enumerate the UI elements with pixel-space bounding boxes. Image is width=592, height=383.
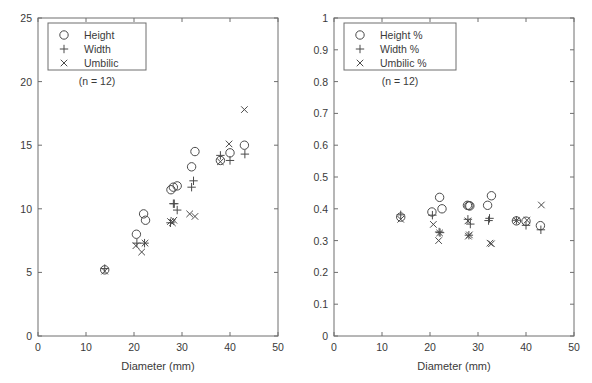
sample-size-annotation: (n = 12) [79,75,115,87]
x-tick-label: 50 [272,341,284,353]
chart-panel-right: 0102030405000.10.20.30.40.50.60.70.80.91… [296,0,592,383]
y-tick-label: 0.5 [313,171,328,183]
legend-label-cross: Umbilic % [380,57,427,69]
x-tick-label: 30 [472,341,484,353]
x-tick-label: 50 [568,341,580,353]
scatter-plot-right: 0102030405000.10.20.30.40.50.60.70.80.91… [296,0,592,383]
y-tick-label: 20 [20,76,32,88]
x-tick-label: 20 [424,341,436,353]
y-tick-label: 0.7 [313,107,328,119]
legend-label-circle: Height % [380,29,423,41]
y-tick-label: 0.8 [313,76,328,88]
x-axis-title: Diameter (mm) [121,360,194,372]
y-tick-label: 15 [20,139,32,151]
x-tick-label: 40 [224,341,236,353]
y-tick-label: 5 [26,266,32,278]
x-tick-label: 10 [80,341,92,353]
x-tick-label: 0 [35,341,41,353]
y-tick-label: 0 [322,330,328,342]
y-tick-label: 0.1 [313,298,328,310]
legend-label-plus: Width [84,43,111,55]
y-tick-label: 0.4 [313,203,328,215]
y-tick-label: 0.2 [313,266,328,278]
sample-size-annotation: (n = 12) [382,75,418,87]
figure-container: 010203040500510152025Diameter (mm)Height… [0,0,592,383]
x-tick-label: 0 [331,341,337,353]
y-tick-label: 0 [26,330,32,342]
y-tick-label: 25 [20,12,32,24]
x-tick-label: 10 [376,341,388,353]
x-tick-label: 40 [520,341,532,353]
legend-label-plus: Width % [380,43,419,55]
chart-panel-left: 010203040500510152025Diameter (mm)Height… [0,0,296,383]
x-tick-label: 30 [176,341,188,353]
x-axis-title: Diameter (mm) [417,360,490,372]
scatter-plot-left: 010203040500510152025Diameter (mm)Height… [0,0,296,383]
y-tick-label: 1 [322,12,328,24]
legend-label-circle: Height [84,29,114,41]
y-tick-label: 0.3 [313,235,328,247]
y-tick-label: 0.9 [313,44,328,56]
y-tick-label: 10 [20,203,32,215]
y-tick-label: 0.6 [313,139,328,151]
x-tick-label: 20 [128,341,140,353]
legend-label-cross: Umbilic [84,57,118,69]
